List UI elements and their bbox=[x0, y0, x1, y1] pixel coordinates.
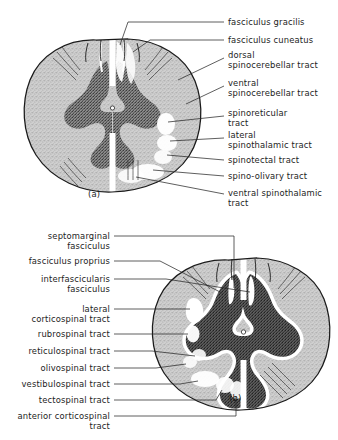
label-rubrospinal-tract: rubrospinal tract bbox=[0, 329, 110, 339]
vestibulospinal-region-b bbox=[191, 371, 219, 387]
lateral-spinothalamic-region-a bbox=[157, 135, 177, 151]
label-anterior-corticospinal-tract: anterior corticospinal tract bbox=[0, 411, 110, 431]
label-ventral-spinothalamic-tract: ventral spinothalamic tract bbox=[228, 188, 322, 208]
rubrospinal-region-b bbox=[187, 326, 200, 343]
label-spinoreticular-tract: spinoreticular tract bbox=[228, 108, 287, 128]
label-tectospinal-tract: tectospinal tract bbox=[0, 395, 110, 405]
label-reticulospinal-tract: reticulospinal tract bbox=[0, 346, 110, 356]
label-ventral-spinocerebellar-tract: ventral spinocerebellar tract bbox=[228, 78, 318, 98]
anterior-median-fissure-a bbox=[110, 133, 116, 192]
label-interfascicularis-fasciculus: interfascicularis fasciculus bbox=[0, 274, 110, 294]
label-spino-olivary-tract: spino-olivary tract bbox=[228, 171, 307, 181]
panel-a-artwork bbox=[24, 39, 201, 192]
spinoreticular-region-a bbox=[157, 113, 175, 135]
central-canal-a bbox=[110, 106, 114, 110]
olivospinal-region-b bbox=[183, 356, 197, 368]
spino-olivary-region-a bbox=[118, 169, 144, 183]
label-fasciculus-proprius: fasciculus proprius bbox=[0, 256, 110, 266]
figure-caption-a: (a) bbox=[88, 189, 100, 199]
label-olivospinal-tract: olivospinal tract bbox=[0, 363, 110, 373]
posterior-median-sulcus-a bbox=[110, 40, 116, 86]
figure-caption-b: (b) bbox=[229, 393, 241, 403]
label-lateral-corticospinal-tract: lateral corticospinal tract bbox=[0, 304, 110, 324]
central-canal-b bbox=[241, 330, 245, 334]
label-fasciculus-cuneatus: fasciculus cuneatus bbox=[228, 35, 313, 45]
label-fasciculus-gracilis: fasciculus gracilis bbox=[228, 17, 305, 27]
label-spinotectal-tract: spinotectal tract bbox=[228, 155, 299, 165]
label-septomarginal-fasciculus: septomarginal fasciculus bbox=[0, 231, 110, 251]
spinotectal-region-a bbox=[154, 150, 172, 164]
label-vestibulospinal-tract: vestibulospinal tract bbox=[0, 379, 110, 389]
spinal-cord-figure: fasciculus gracilis fasciculus cuneatus … bbox=[0, 0, 338, 440]
label-dorsal-spinocerebellar-tract: dorsal spinocerebellar tract bbox=[228, 50, 318, 70]
label-lateral-spinothalamic-tract: lateral spinothalamic tract bbox=[228, 130, 312, 150]
posterior-median-sulcus-b bbox=[241, 259, 247, 300]
